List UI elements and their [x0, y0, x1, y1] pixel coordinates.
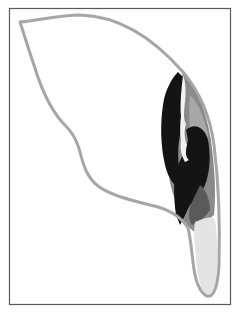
- specimen-diagram: [0, 0, 241, 313]
